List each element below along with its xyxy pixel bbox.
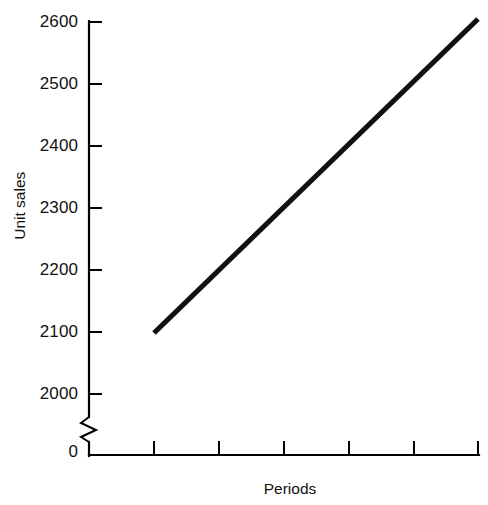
y-tick-label-2200: 2200: [6, 261, 78, 278]
y-tick-label-2000: 2000: [6, 385, 78, 402]
y-tick-label-2100: 2100: [6, 323, 78, 340]
y-tick-label-2500: 2500: [6, 75, 78, 92]
y-axis-title: Unit sales: [12, 161, 28, 251]
series-line-unit-sales: [154, 19, 478, 333]
x-axis-title: Periods: [224, 481, 356, 497]
y-tick-label-2600: 2600: [6, 13, 78, 30]
y-axis-break-icon: [81, 417, 96, 442]
y-tick-label-origin: 0: [6, 443, 78, 460]
chart-figure: 2600 2500 2400 2300 2200 2100 2000 0 Uni…: [0, 0, 488, 505]
y-tick-label-2400: 2400: [6, 137, 78, 154]
